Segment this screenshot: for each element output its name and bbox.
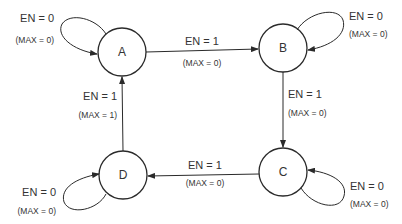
transition-b-b-condition: EN = 0 (349, 10, 383, 22)
transition-c-d-condition: EN = 1 (188, 159, 222, 171)
state-diagram: A B C D EN = 1 (MAX = 0) EN = 1 (MAX = 0… (0, 0, 402, 224)
transition-c-to-d: EN = 1 (MAX = 0) (148, 159, 259, 188)
transition-b-c-output: (MAX = 0) (288, 108, 327, 118)
transition-d-d-condition: EN = 0 (22, 186, 56, 198)
transition-d-to-a: EN = 1 (MAX = 1) (79, 77, 124, 151)
transition-a-self-loop: EN = 0 (MAX = 0) (16, 12, 107, 54)
transition-a-to-b: EN = 1 (MAX = 0) (146, 35, 258, 68)
state-d: D (99, 151, 147, 199)
transition-b-to-c: EN = 1 (MAX = 0) (283, 72, 327, 147)
transition-d-self-loop: EN = 0 (MAX = 0) (18, 174, 107, 216)
transition-b-b-output: (MAX = 0) (349, 29, 388, 39)
transition-b-c-condition: EN = 1 (288, 88, 322, 100)
transition-c-self-loop: EN = 0 (MAX = 0) (301, 170, 389, 209)
transition-c-c-output: (MAX = 0) (350, 199, 389, 209)
state-a: A (98, 28, 146, 76)
transition-d-a-output: (MAX = 1) (79, 110, 118, 120)
state-c: C (259, 148, 307, 196)
transition-a-a-output: (MAX = 0) (16, 35, 55, 45)
transition-b-self-loop: EN = 0 (MAX = 0) (297, 10, 388, 50)
state-c-label: C (279, 165, 288, 179)
transition-d-d-output: (MAX = 0) (18, 206, 57, 216)
state-b: B (259, 24, 307, 72)
transition-d-a-condition: EN = 1 (83, 90, 117, 102)
state-d-label: D (119, 168, 128, 182)
transition-a-b-condition: EN = 1 (185, 35, 219, 47)
transition-a-a-condition: EN = 0 (20, 12, 54, 24)
state-b-label: B (279, 41, 287, 55)
transition-a-b-output: (MAX = 0) (183, 58, 222, 68)
state-a-label: A (118, 45, 126, 59)
transition-c-c-condition: EN = 0 (350, 180, 384, 192)
transition-c-d-output: (MAX = 0) (186, 178, 225, 188)
